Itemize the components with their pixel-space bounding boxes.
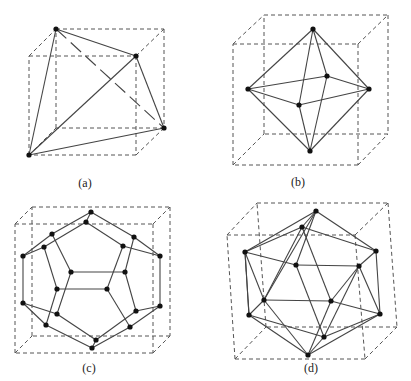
figure-b-octahedron [233, 15, 388, 165]
figure-label-a: (a) [78, 176, 91, 191]
figure-d-icosahedron [227, 203, 397, 359]
edges-a [29, 29, 164, 155]
edges-d [245, 211, 380, 355]
vertices-c [20, 209, 162, 350]
polyhedra-figure [0, 0, 411, 381]
figure-label-c: (c) [82, 361, 95, 376]
figure-label-b: (b) [291, 175, 305, 190]
figure-a-tetrahedron [26, 26, 166, 157]
cube-d [227, 203, 397, 359]
figure-c-dodecahedron [15, 207, 170, 353]
edges-b [248, 29, 369, 151]
figure-label-d: (d) [304, 361, 318, 376]
edges-c [23, 212, 160, 348]
cube-c [15, 207, 170, 353]
